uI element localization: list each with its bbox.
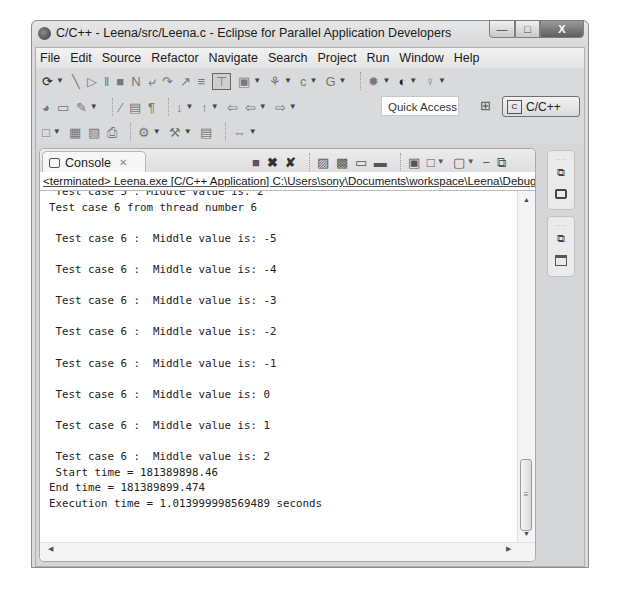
annotation-icon[interactable]: ∕ [120, 101, 122, 114]
restore-icon[interactable]: ⧉ [557, 166, 565, 179]
scroll-up-arrow-icon[interactable]: ▲ [518, 193, 535, 207]
external-tools-icon[interactable]: ♀ [425, 75, 435, 88]
menu-edit[interactable]: Edit [70, 51, 92, 65]
maximize-view-icon[interactable]: ⧉ [497, 156, 506, 169]
new-class-dropdown-icon[interactable]: ▼ [309, 77, 317, 85]
debug-dropdown-icon[interactable]: ▼ [382, 77, 390, 85]
new-c-project-icon[interactable]: ▣ [238, 75, 250, 88]
search-tool-icon[interactable]: ✎ [76, 101, 87, 114]
next-annotation-dropdown-icon[interactable]: ▼ [185, 103, 193, 111]
search-dropdown-icon[interactable]: ▼ [90, 103, 98, 111]
sync-icon[interactable]: ⇔ [233, 126, 246, 139]
open-folder-icon[interactable]: ▭ [57, 101, 69, 114]
display-console-dropdown-icon[interactable]: ▼ [437, 158, 445, 166]
build-all-icon[interactable]: ⚙ [138, 126, 150, 139]
open-type-dropdown-icon[interactable]: ▼ [339, 77, 347, 85]
menu-source[interactable]: Source [102, 51, 142, 65]
clean-dropdown-icon[interactable]: ▼ [184, 128, 192, 136]
new-icon[interactable]: □ [42, 126, 50, 139]
minimize-button[interactable]: — [489, 20, 515, 38]
new-dropdown-icon[interactable]: ▼ [53, 128, 61, 136]
terminate-icon[interactable]: ■ [252, 156, 260, 169]
open-type-icon[interactable]: G [325, 75, 335, 88]
close-tab-icon[interactable]: ✕ [119, 157, 127, 168]
open-console-icon[interactable]: ▢ [453, 156, 465, 169]
show-whitespace-icon[interactable]: ¶ [148, 101, 155, 114]
quick-access-input[interactable]: Quick Access [381, 96, 459, 116]
skip-breakpoints-icon[interactable]: ╲ [72, 75, 80, 88]
vertical-scroll-thumb[interactable]: ≡ [520, 459, 532, 531]
build-dropdown-icon[interactable]: ▼ [56, 77, 64, 85]
remove-all-terminated-icon[interactable]: ✘ [285, 156, 296, 169]
tab-console[interactable]: Console ✕ [42, 151, 146, 173]
drag-handle-icon[interactable]: .... [555, 154, 567, 161]
menu-window[interactable]: Window [399, 51, 443, 65]
outline-view-icon[interactable] [555, 255, 567, 266]
close-button[interactable]: X [540, 20, 584, 38]
perspective-c-cpp-button[interactable]: C C/C++ [502, 96, 580, 117]
console-view-icon[interactable] [555, 189, 567, 199]
menu-navigate[interactable]: Navigate [209, 51, 258, 65]
step-return-icon[interactable]: ↗ [180, 75, 191, 88]
next-annotation-icon[interactable]: ↓ [176, 101, 183, 114]
menu-search[interactable]: Search [268, 51, 308, 65]
menu-help[interactable]: Help [454, 51, 480, 65]
external-tools-dropdown-icon[interactable]: ▼ [438, 77, 446, 85]
disconnect-icon[interactable]: N [131, 75, 140, 88]
open-console-dropdown-icon[interactable]: ▼ [467, 158, 475, 166]
scroll-down-arrow-icon[interactable]: ▼ [518, 527, 535, 541]
last-edit-location-icon[interactable]: ⇦ [227, 101, 238, 114]
sync-dropdown-icon[interactable]: ▼ [249, 128, 257, 136]
new-class-icon[interactable]: c [300, 75, 307, 88]
debug-icon[interactable]: ✹ [368, 75, 379, 88]
resume-icon[interactable]: ▷ [87, 75, 97, 88]
previous-annotation-icon[interactable]: ↑ [201, 101, 208, 114]
print-icon[interactable]: ⎙ [107, 126, 117, 139]
new-folder-dropdown-icon[interactable]: ▼ [284, 77, 292, 85]
menu-file[interactable]: File [40, 51, 60, 65]
build-all-dropdown-icon[interactable]: ▼ [153, 128, 161, 136]
toggle-mark-occurrences-icon[interactable]: ▤ [129, 101, 141, 114]
show-on-stdout-icon[interactable]: ▭ [355, 156, 367, 169]
menu-project[interactable]: Project [318, 51, 357, 65]
horizontal-scrollbar[interactable]: ◀ ▶ [40, 542, 535, 561]
step-into-icon[interactable]: ⤶ [148, 75, 155, 88]
build-icon[interactable]: ⟳ [42, 75, 53, 88]
open-perspective-icon[interactable]: ⊞ [480, 98, 491, 113]
menu-refactor[interactable]: Refactor [151, 51, 198, 65]
new-project-dropdown-icon[interactable]: ▼ [253, 77, 261, 85]
drag-handle-icon[interactable]: .... [555, 220, 567, 227]
previous-annotation-dropdown-icon[interactable]: ▼ [211, 103, 219, 111]
back-icon[interactable]: ⇦ [245, 101, 256, 114]
clear-console-icon[interactable]: ▨ [317, 156, 329, 169]
scroll-lock-icon[interactable]: ▩ [336, 156, 348, 169]
show-on-stderr-icon[interactable]: ▬ [374, 156, 387, 169]
scroll-right-arrow-icon[interactable]: ▶ [506, 545, 511, 553]
new-source-folder-icon[interactable]: ⚘ [269, 75, 281, 88]
forward-icon[interactable]: ⇨ [275, 101, 286, 114]
binary-icon[interactable]: ▤ [200, 126, 212, 139]
instruction-stepping-icon[interactable]: ⊤ [212, 73, 231, 90]
pin-console-icon[interactable]: ▣ [408, 156, 420, 169]
restore-icon[interactable]: ⧉ [557, 232, 565, 245]
run-icon[interactable]: ◐ [398, 75, 406, 88]
menu-run[interactable]: Run [366, 51, 389, 65]
drop-to-frame-icon[interactable]: ≡ [198, 75, 206, 88]
minimize-view-icon[interactable]: − [483, 156, 491, 169]
console-output[interactable]: Test case 5 : Middle value is: 2 Test ca… [40, 191, 518, 543]
title-bar[interactable]: C/C++ - Leena/src/Leena.c - Eclipse for … [32, 21, 588, 47]
save-icon[interactable]: ▦ [69, 126, 81, 139]
open-element-icon[interactable]: ◕ [42, 101, 50, 114]
forward-dropdown-icon[interactable]: ▼ [289, 103, 297, 111]
back-dropdown-icon[interactable]: ▼ [259, 103, 267, 111]
display-console-icon[interactable]: □ [427, 156, 435, 169]
maximize-button[interactable]: □ [515, 20, 540, 38]
run-dropdown-icon[interactable]: ▼ [409, 77, 417, 85]
vertical-scrollbar[interactable]: ▲ ≡ ▼ [517, 191, 535, 543]
clean-icon[interactable]: ⚒ [169, 126, 181, 139]
terminate-icon[interactable]: ■ [116, 75, 124, 88]
scroll-left-arrow-icon[interactable]: ◀ [48, 545, 53, 553]
save-all-icon[interactable]: ▧ [88, 126, 100, 139]
suspend-icon[interactable]: ‖ [104, 75, 109, 88]
step-over-icon[interactable]: ↷ [162, 75, 173, 88]
